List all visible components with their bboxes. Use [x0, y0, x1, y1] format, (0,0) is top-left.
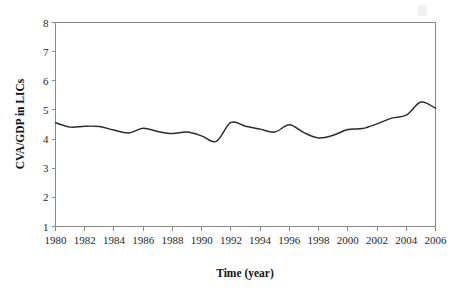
x-axis-tick-label: 2000: [337, 234, 360, 246]
x-axis-tick-label: 1998: [308, 234, 331, 246]
x-axis-tick-label: 2002: [366, 234, 388, 246]
chart-figure: 12345678 1980198219841986198819901992199…: [0, 0, 466, 288]
line-chart: 12345678 1980198219841986198819901992199…: [0, 0, 466, 288]
x-axis-title: Time (year): [216, 267, 274, 280]
y-axis-tick-label: 4: [43, 133, 49, 145]
x-axis-tick-labels: 1980198219841986198819901992199419961998…: [45, 234, 448, 246]
y-axis-tick-label: 7: [43, 46, 49, 58]
x-axis-tick-label: 2006: [425, 234, 448, 246]
scan-artifact-speck: [418, 5, 427, 16]
x-axis-tick-label: 2004: [395, 234, 418, 246]
y-axis-tick-label: 5: [43, 104, 49, 116]
plot-area-border: [56, 23, 436, 227]
data-series-group: [56, 102, 436, 142]
y-axis-tick-labels: 12345678: [43, 17, 49, 233]
x-axis-tick-label: 1992: [220, 234, 242, 246]
x-axis-tick-label: 1982: [74, 234, 96, 246]
x-axis-tick-label: 1986: [132, 234, 155, 246]
x-axis-tick-label: 1988: [161, 234, 184, 246]
x-axis-tick-label: 1996: [278, 234, 301, 246]
x-axis-tick-label: 1980: [45, 234, 68, 246]
y-axis-title: CVA/GDP in LICs: [14, 78, 26, 169]
data-series-line: [56, 102, 436, 142]
plot-frame: [56, 23, 436, 227]
y-axis-tick-label: 2: [43, 191, 49, 203]
y-axis-tick-label: 8: [43, 17, 49, 29]
x-axis-ticks: [56, 227, 436, 231]
x-axis-tick-label: 1990: [191, 234, 214, 246]
y-axis-tick-label: 1: [43, 221, 49, 233]
y-axis-tick-label: 6: [43, 75, 49, 87]
y-axis-ticks: [52, 23, 56, 227]
y-axis-tick-label: 3: [43, 162, 49, 174]
x-axis-tick-label: 1984: [103, 234, 126, 246]
x-axis-tick-label: 1994: [249, 234, 272, 246]
